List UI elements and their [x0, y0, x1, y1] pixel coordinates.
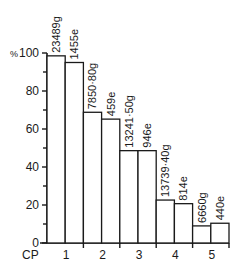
y-unit-label: % — [10, 49, 18, 59]
y-tick-label: 100 — [19, 46, 39, 60]
bar-value-label: 23489g — [50, 16, 62, 53]
y-tick-label: 60 — [26, 122, 40, 136]
y-axis-ticks: 020406080100 — [19, 46, 47, 250]
y-tick-label: 20 — [26, 198, 40, 212]
bar-value-label: 440e — [214, 196, 226, 220]
bar-e-cp5 — [211, 223, 229, 243]
bar-e-cp1 — [65, 63, 83, 244]
bar-e-cp4 — [174, 204, 192, 243]
y-tick-label: 80 — [26, 84, 40, 98]
bar-value-label: 7850·80g — [87, 63, 99, 110]
bar-value-label: 946e — [141, 123, 153, 147]
x-axis-ticks: 12345 — [63, 243, 229, 262]
bar-e-cp3 — [138, 151, 156, 243]
bar-value-label: 13739·40g — [159, 144, 171, 197]
bar-g-cp5 — [193, 226, 211, 243]
bar-chart: 020406080100 12345 23489g1455e7850·80g45… — [0, 0, 242, 267]
bar-g-cp3 — [120, 151, 138, 243]
x-tick-label: 2 — [99, 248, 106, 262]
bar-g-cp4 — [156, 200, 174, 243]
bar-value-label: 6660g — [196, 192, 208, 223]
bar-value-label: 814e — [178, 176, 190, 200]
x-tick-label: 5 — [208, 248, 215, 262]
bar-value-label: 1455e — [68, 29, 80, 60]
bar-e-cp2 — [102, 119, 120, 243]
x-axis-prefix-label: CP — [22, 248, 39, 262]
y-tick-label: 40 — [26, 160, 40, 174]
bar-g-cp2 — [83, 112, 101, 243]
bar-value-label: 13241·50g — [123, 95, 135, 148]
x-tick-label: 4 — [172, 248, 179, 262]
bar-g-cp1 — [47, 56, 65, 243]
x-tick-label: 1 — [63, 248, 70, 262]
bar-value-label: 459e — [105, 92, 117, 116]
x-tick-label: 3 — [136, 248, 143, 262]
